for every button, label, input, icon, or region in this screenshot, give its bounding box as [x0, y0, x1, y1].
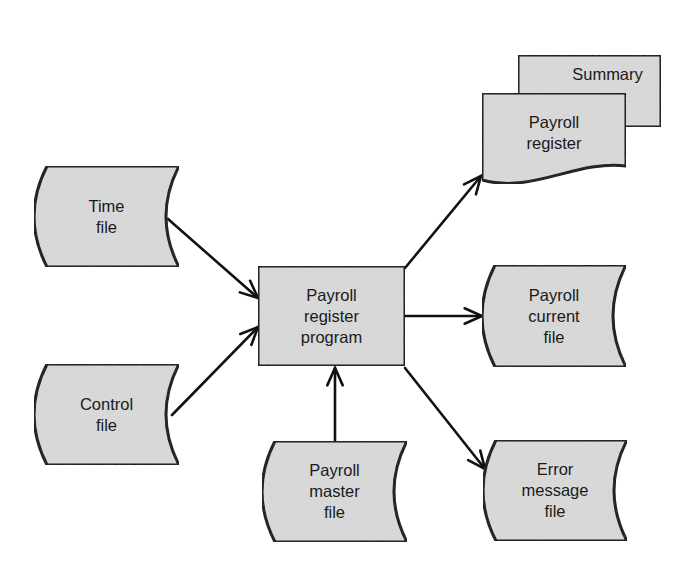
- arrow-payroll-register-program-to-payroll-current-file: [405, 308, 482, 323]
- error-message-file-shape: [483, 440, 627, 541]
- payroll-register-program-shape: [258, 266, 405, 366]
- shapes-layer: [34, 55, 661, 542]
- arrow-payroll-register-program-to-payroll-register: [405, 176, 481, 268]
- arrow-payroll-master-file-to-payroll-register-program: [327, 368, 342, 442]
- payroll-register-shape: [482, 93, 626, 183]
- time-file-shape: [34, 166, 179, 267]
- flowchart-canvas: [0, 0, 683, 577]
- control-file-shape: [34, 364, 179, 465]
- arrow-time-file-to-payroll-register-program: [168, 219, 258, 298]
- payroll-master-file-shape: [262, 441, 407, 542]
- arrow-control-file-to-payroll-register-program: [172, 327, 258, 415]
- arrow-payroll-register-program-to-error-message-file: [405, 368, 485, 469]
- payroll-current-file-shape: [482, 265, 626, 367]
